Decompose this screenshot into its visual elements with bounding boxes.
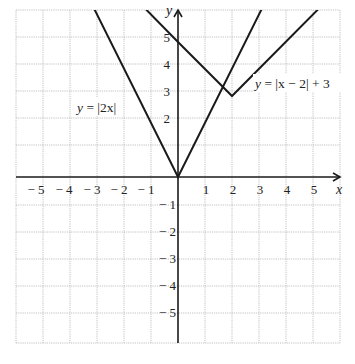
svg-text:3: 3 [257,182,264,197]
svg-text:5: 5 [311,182,318,197]
x-axis-label: x [335,182,343,197]
svg-text:− 3: − 3 [159,251,176,266]
svg-text:− 1: − 1 [159,197,176,212]
svg-text:y = |x − 2| + 3: y = |x − 2| + 3 [253,76,330,91]
annotation-abs-2x: y = |2x| [75,98,123,116]
svg-text:− 5: − 5 [159,305,176,320]
graph: y x − 5 − 4 − 3 − 2 − 1 1 2 3 4 5 5 4 3 … [0,0,355,364]
annotation-abs-x-minus-2-plus-3: y = |x − 2| + 3 [253,74,343,92]
svg-text:1: 1 [203,182,210,197]
svg-text:2: 2 [230,182,237,197]
svg-text:− 1: − 1 [137,182,154,197]
svg-text:− 2: − 2 [159,224,176,239]
svg-text:− 4: − 4 [55,182,73,197]
svg-text:4: 4 [164,57,171,72]
svg-text:− 3: − 3 [83,182,100,197]
svg-text:4: 4 [284,182,291,197]
svg-text:3: 3 [164,84,171,99]
svg-text:− 5: − 5 [27,182,44,197]
y-tick-labels: 5 4 3 2 − 1 − 2 − 3 − 4 − 5 [159,30,177,320]
svg-text:y = |2x|: y = |2x| [75,100,116,115]
svg-text:− 2: − 2 [110,182,127,197]
svg-text:5: 5 [164,30,171,45]
x-tick-labels: − 5 − 4 − 3 − 2 − 1 1 2 3 4 5 [27,182,317,197]
y-axis-label: y [164,3,173,18]
svg-text:2: 2 [164,111,171,126]
svg-text:− 4: − 4 [159,278,177,293]
